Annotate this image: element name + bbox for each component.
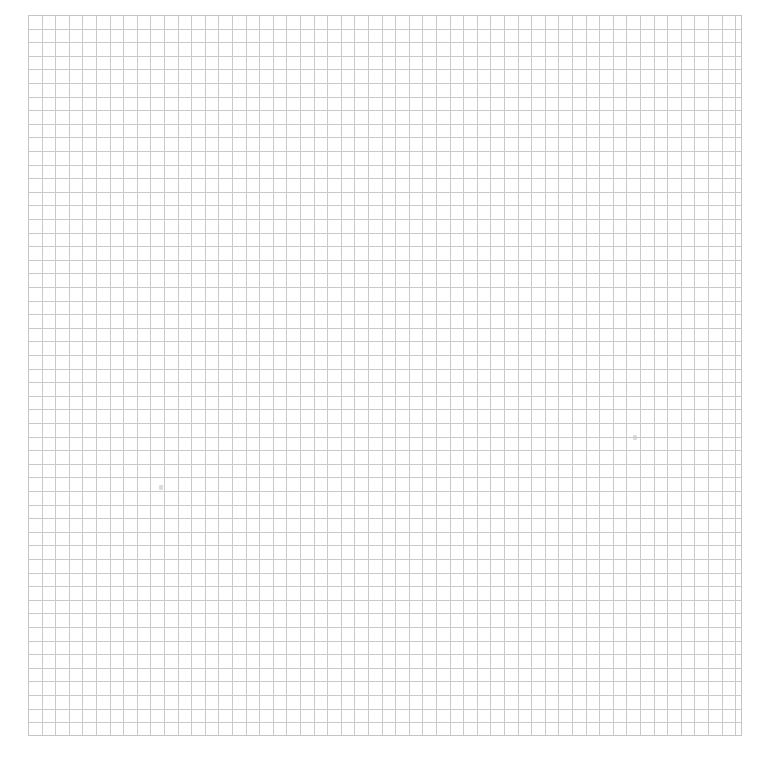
smudge-right [633, 435, 637, 440]
smudge-left [159, 485, 163, 490]
grid-edge-left-rule [28, 15, 29, 736]
grid-paper-area [28, 15, 742, 736]
grid-canvas [0, 0, 757, 762]
grid-edge-bottom-rule [28, 735, 742, 736]
grid-edge-top-rule [28, 15, 742, 16]
grid-edge-right-rule [741, 15, 742, 736]
